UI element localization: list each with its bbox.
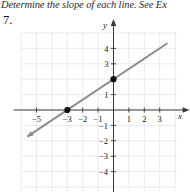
- coordinate-graph: −5−3−2−1123431−1−2−3−4 y x: [0, 16, 190, 192]
- graph-svg: −5−3−2−1123431−1−2−3−4 y x: [0, 16, 190, 192]
- x-tick-label: −2: [78, 114, 87, 124]
- y-axis-label: y: [102, 20, 107, 30]
- x-tick-label: 2: [142, 114, 146, 124]
- instruction-text: Determine the slope of each line. See Ex: [1, 0, 190, 11]
- plotted-point: [64, 107, 70, 113]
- plotted-point: [110, 76, 116, 82]
- y-tick-label: −2: [99, 136, 108, 146]
- y-tick-label: −3: [99, 151, 108, 161]
- x-tick-label: 1: [127, 114, 131, 124]
- x-axis-label: x: [177, 111, 182, 121]
- y-tick-label: −4: [99, 167, 109, 177]
- y-tick-label: 3: [104, 59, 108, 69]
- x-tick-label: 3: [158, 114, 162, 124]
- y-tick-label: −1: [99, 121, 108, 131]
- x-tick-label: −5: [32, 114, 41, 124]
- y-tick-label: 1: [104, 90, 108, 100]
- x-tick-label: −3: [63, 114, 72, 124]
